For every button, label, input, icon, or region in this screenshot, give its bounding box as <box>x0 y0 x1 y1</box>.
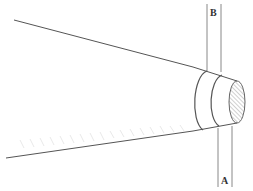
cylinder-end-face <box>229 81 245 123</box>
cone-top-edge <box>14 20 193 67</box>
cylinder-ring-2 <box>211 75 222 126</box>
label-a: A <box>221 175 229 186</box>
cylinder <box>193 67 245 131</box>
label-b: B <box>210 7 217 18</box>
cone-bottom-edge <box>6 131 193 158</box>
cylinder-ring-1 <box>195 71 207 130</box>
diagram-canvas: B A <box>0 0 253 191</box>
